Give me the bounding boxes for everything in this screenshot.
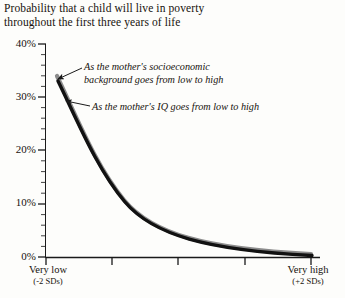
plot-area [0,0,345,298]
leader-line-socioeconomic [58,68,82,79]
chart-figure: Probability that a child will live in po… [0,0,345,298]
series-line-socioeconomic [57,76,311,254]
x-ticks [46,257,311,265]
series-line-iq [58,81,312,256]
